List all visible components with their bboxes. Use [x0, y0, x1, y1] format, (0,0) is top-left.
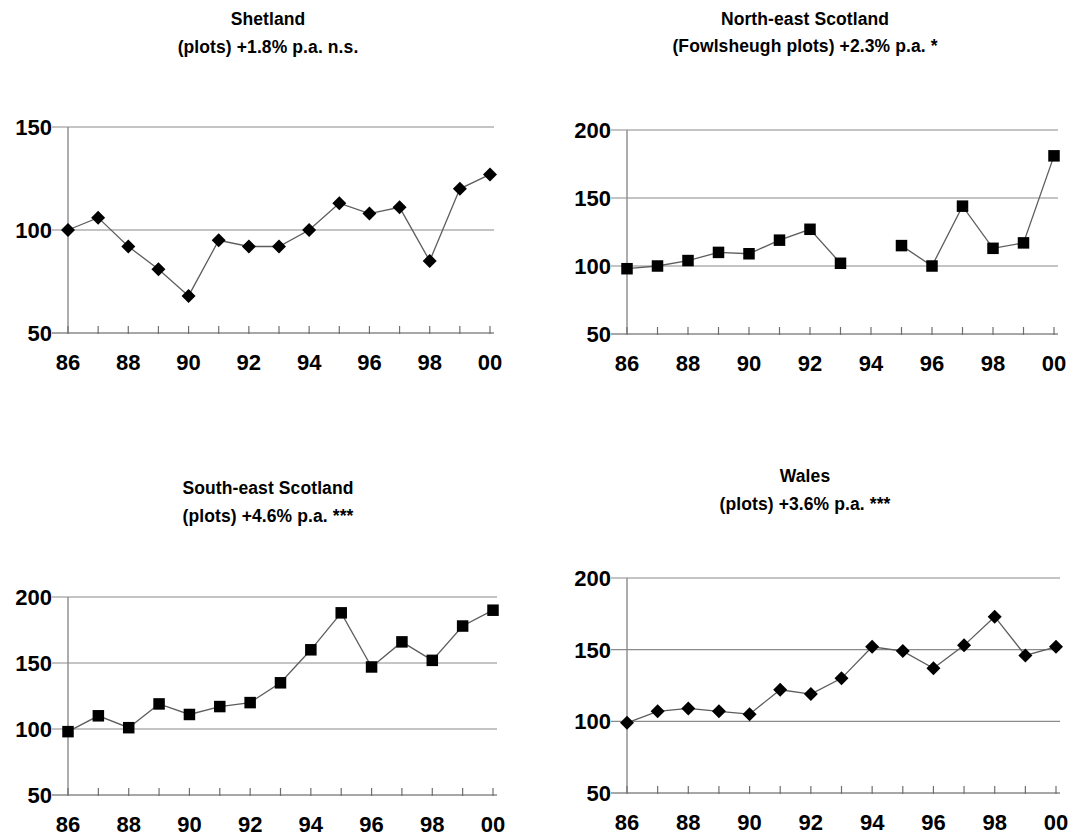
data-point-marker: [244, 697, 256, 709]
data-point-marker: [423, 254, 437, 268]
data-point-marker: [453, 182, 467, 196]
x-axis-tick-label: 98: [417, 350, 441, 375]
x-axis-tick-label: 86: [615, 810, 639, 835]
x-axis-tick-label: 98: [981, 351, 1005, 376]
x-axis-tick-label: 98: [420, 812, 444, 837]
x-axis-tick-label: 94: [299, 812, 324, 837]
data-point-marker: [713, 247, 725, 259]
data-point-marker: [835, 258, 847, 270]
data-point-marker: [305, 644, 317, 656]
x-axis-tick-label: 94: [859, 351, 884, 376]
data-point-marker: [804, 224, 816, 236]
panel-north-east-scotland: North-east Scotland (Fowlsheugh plots) +…: [537, 0, 1073, 420]
x-axis-tick-label: 90: [737, 810, 761, 835]
data-point-marker: [712, 704, 726, 718]
chart-svg-shetland: 501001508688909294969800: [0, 0, 536, 420]
x-axis-tick-label: 94: [860, 810, 885, 835]
data-point-marker: [652, 260, 664, 272]
data-point-marker: [774, 234, 786, 246]
x-axis-tick-label: 90: [176, 350, 200, 375]
data-point-marker: [153, 698, 165, 710]
data-point-marker: [335, 607, 347, 619]
x-axis-tick-label: 00: [481, 812, 505, 837]
data-point-marker: [896, 644, 910, 658]
chart-svg-wales: 501001502008688909294969800: [537, 440, 1073, 840]
data-point-marker: [926, 260, 938, 272]
x-axis-tick-label: 88: [676, 810, 700, 835]
data-point-marker: [362, 207, 376, 221]
data-point-marker: [457, 620, 469, 632]
data-point-marker: [804, 687, 818, 701]
data-point-marker: [743, 248, 755, 260]
y-axis-tick-label: 100: [15, 717, 52, 742]
x-axis-tick-label: 86: [56, 350, 80, 375]
data-point-marker: [957, 200, 969, 212]
x-axis-tick-label: 86: [56, 812, 80, 837]
y-axis-tick-label: 150: [15, 651, 52, 676]
x-axis-tick-label: 90: [737, 351, 761, 376]
data-point-marker: [393, 200, 407, 214]
data-point-marker: [214, 701, 226, 713]
data-point-marker: [681, 701, 695, 715]
x-axis-tick-label: 92: [798, 351, 822, 376]
x-axis-tick-label: 90: [177, 812, 201, 837]
chart-wales: 501001502008688909294969800: [537, 440, 1073, 840]
x-axis-tick-label: 88: [116, 812, 140, 837]
chart-north-east-scotland: 501001502008688909294969800: [537, 0, 1073, 420]
y-axis-tick-label: 200: [574, 118, 611, 143]
data-point-marker: [242, 239, 256, 253]
y-axis-tick-label: 150: [574, 186, 611, 211]
data-point-marker: [987, 243, 999, 255]
x-axis-tick-label: 96: [359, 812, 383, 837]
y-axis-tick-label: 50: [587, 322, 611, 347]
data-point-marker: [272, 239, 286, 253]
chart-svg-north-east-scotland: 501001502008688909294969800: [537, 0, 1073, 420]
x-axis-tick-label: 92: [799, 810, 823, 835]
data-point-marker: [427, 655, 439, 667]
y-axis-tick-label: 100: [15, 218, 52, 243]
data-point-marker: [184, 709, 196, 721]
y-axis-tick-label: 50: [28, 321, 52, 346]
data-point-marker: [1049, 640, 1063, 654]
x-axis-tick-label: 96: [921, 810, 945, 835]
data-point-marker: [1048, 150, 1060, 162]
data-point-marker: [396, 636, 408, 648]
x-axis-tick-label: 88: [116, 350, 140, 375]
x-axis-tick-label: 96: [357, 350, 381, 375]
panel-shetland: Shetland (plots) +1.8% p.a. n.s. 5010015…: [0, 0, 536, 420]
chart-svg-south-east-scotland: 501001502008688909294969800: [0, 440, 536, 840]
x-axis-tick-label: 86: [615, 351, 639, 376]
data-point-marker: [621, 263, 633, 275]
y-axis-tick-label: 150: [15, 115, 52, 140]
x-axis-tick-label: 92: [238, 812, 262, 837]
y-axis-tick-label: 100: [574, 709, 611, 734]
y-axis-tick-label: 50: [28, 783, 52, 808]
x-axis-tick-label: 96: [920, 351, 944, 376]
data-point-marker: [1018, 648, 1032, 662]
y-axis-tick-label: 200: [15, 585, 52, 610]
x-axis-tick-label: 00: [478, 350, 502, 375]
x-axis-tick-label: 98: [982, 810, 1006, 835]
multi-panel-figure: Shetland (plots) +1.8% p.a. n.s. 5010015…: [0, 0, 1073, 840]
x-axis-tick-label: 88: [676, 351, 700, 376]
panel-wales: Wales (plots) +3.6% p.a. *** 50100150200…: [537, 440, 1073, 840]
data-point-marker: [483, 167, 497, 181]
data-point-marker: [366, 661, 378, 673]
data-point-marker: [743, 707, 757, 721]
data-point-marker: [773, 683, 787, 697]
y-axis-tick-label: 150: [574, 638, 611, 663]
y-axis-tick-label: 200: [574, 566, 611, 591]
data-point-marker: [926, 661, 940, 675]
x-axis-tick-label: 92: [237, 350, 261, 375]
data-point-marker: [620, 716, 634, 730]
data-point-marker: [275, 677, 287, 689]
data-point-marker: [487, 604, 499, 616]
data-point-marker: [62, 726, 74, 738]
data-point-marker: [682, 255, 694, 267]
data-point-marker: [93, 710, 105, 722]
chart-south-east-scotland: 501001502008688909294969800: [0, 440, 536, 840]
x-axis-tick-label: 94: [297, 350, 322, 375]
x-axis-tick-label: 00: [1044, 810, 1068, 835]
data-point-marker: [896, 240, 908, 252]
data-point-marker: [61, 223, 75, 237]
